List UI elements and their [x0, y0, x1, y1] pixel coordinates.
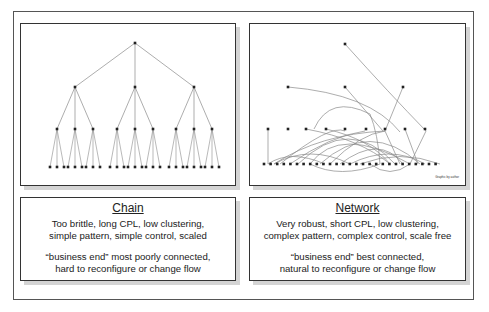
- graphic-credit: Graphic by author: [435, 175, 459, 179]
- network-line-3: “business end” best connected,: [250, 251, 465, 263]
- chain-tree-diagram: [20, 23, 236, 186]
- network-line-2: complex pattern, complex control, scale …: [250, 230, 465, 242]
- chain-title: Chain: [21, 201, 235, 216]
- chain-line-3: “business end” most poorly connected,: [21, 251, 235, 263]
- network-graph: [250, 24, 465, 185]
- chain-description-box: Chain Too brittle, long CPL, low cluster…: [20, 197, 236, 281]
- tree-graph: [21, 24, 235, 185]
- network-line-4: natural to reconfigure or change flow: [250, 263, 465, 275]
- network-line-1: Very robust, short CPL, low clustering,: [250, 218, 465, 230]
- network-title: Network: [250, 201, 465, 216]
- chain-line-1: Too brittle, long CPL, low clustering,: [21, 218, 235, 230]
- network-diagram: Graphic by author: [249, 23, 466, 186]
- chain-line-4: hard to reconfigure or change flow: [21, 263, 235, 275]
- chain-line-2: simple pattern, simple control, scaled: [21, 230, 235, 242]
- network-description-box: Network Very robust, short CPL, low clus…: [249, 197, 466, 281]
